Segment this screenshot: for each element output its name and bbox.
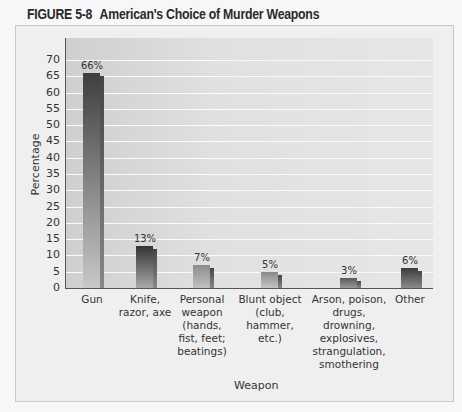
y-tick-label: 45 <box>40 134 60 147</box>
plot-area: 66%13%7%5%3%6% <box>66 38 433 288</box>
gridline <box>66 223 433 224</box>
gridline <box>66 207 433 208</box>
bar-value-label: 3% <box>329 265 369 276</box>
x-tick-label: Other <box>365 293 455 306</box>
gridline <box>66 174 433 175</box>
gridline <box>66 141 433 142</box>
bar-shadow <box>357 281 361 288</box>
x-axis <box>65 288 433 289</box>
y-tick-label: 15 <box>40 232 60 245</box>
figure-caption: American's Choice of Murder Weapons <box>100 5 320 22</box>
gridline <box>66 93 433 94</box>
figure-title: FIGURE 5-8American's Choice of Murder We… <box>27 5 319 22</box>
bar-shadow <box>210 268 214 288</box>
y-tick-label: 60 <box>40 86 60 99</box>
x-axis-label: Weapon <box>234 379 278 392</box>
bar-value-label: 13% <box>125 233 165 244</box>
y-tick-label: 35 <box>40 167 60 180</box>
gridline <box>66 190 433 191</box>
gridline <box>66 158 433 159</box>
bar-value-label: 7% <box>182 252 222 263</box>
y-tick-label: 50 <box>40 118 60 131</box>
y-tick-label: 40 <box>40 151 60 164</box>
y-tick-label: 25 <box>40 200 60 213</box>
bar-shadow <box>153 249 157 288</box>
y-tick-label: 55 <box>40 102 60 115</box>
bar-shadow <box>278 275 282 288</box>
figure-number: FIGURE 5-8 <box>27 5 92 22</box>
bar-value-label: 6% <box>390 255 430 266</box>
bar-value-label: 66% <box>72 60 112 71</box>
y-tick-label: 30 <box>40 183 60 196</box>
y-tick-label: 20 <box>40 216 60 229</box>
gridline <box>66 255 433 256</box>
y-tick-label: 65 <box>40 69 60 82</box>
y-tick-label: 70 <box>40 53 60 66</box>
gridline <box>66 109 433 110</box>
bar <box>340 278 357 288</box>
bar-shadow <box>100 76 104 288</box>
bar-value-label: 5% <box>250 259 290 270</box>
x-tick-label: Blunt object (club, hammer, etc.) <box>225 293 315 345</box>
y-axis-label: Percentage <box>29 125 42 205</box>
gridline <box>66 60 433 61</box>
bar <box>401 268 418 288</box>
gridline <box>66 125 433 126</box>
bar-shadow <box>418 271 422 288</box>
gridline <box>66 272 433 273</box>
gridline <box>66 239 433 240</box>
bar <box>136 246 153 288</box>
bar <box>193 265 210 288</box>
bar <box>261 272 278 288</box>
gridline <box>66 76 433 77</box>
bar <box>83 73 100 288</box>
y-axis <box>65 38 66 289</box>
y-tick-label: 5 <box>40 265 60 278</box>
y-tick-label: 10 <box>40 248 60 261</box>
